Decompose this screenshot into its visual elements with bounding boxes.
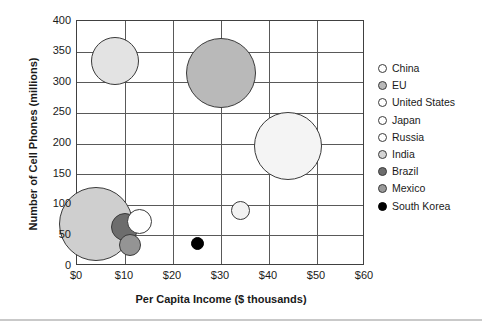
- legend-item-china[interactable]: China: [378, 60, 482, 77]
- x-tick-label: $0: [54, 270, 98, 281]
- bubble-south-korea: [191, 237, 204, 250]
- legend-item-label: Japan: [392, 115, 421, 126]
- legend-item-india[interactable]: India: [378, 146, 482, 163]
- legend-item-brazil[interactable]: Brazil: [378, 163, 482, 180]
- plot-area: [76, 20, 364, 265]
- legend: ChinaEUUnited StatesJapanRussiaIndiaBraz…: [378, 60, 482, 215]
- x-tick-label: $50: [294, 270, 338, 281]
- legend-item-label: India: [392, 149, 415, 160]
- y-tick-label: 100: [31, 198, 71, 209]
- legend-item-japan[interactable]: Japan: [378, 112, 482, 129]
- legend-item-label: Brazil: [392, 166, 418, 177]
- bubble-japan: [231, 201, 250, 220]
- legend-item-label: United States: [392, 97, 455, 108]
- legend-marker-icon: [378, 98, 387, 107]
- legend-marker-icon: [378, 64, 387, 73]
- bubble-chart-figure: Number of Cell Phones (millions) 0501001…: [0, 0, 482, 321]
- gridline-horizontal: [77, 113, 363, 114]
- gridline-vertical: [173, 21, 174, 264]
- y-tick-label: 300: [31, 76, 71, 87]
- legend-marker-icon: [378, 184, 387, 193]
- y-tick-label: 350: [31, 45, 71, 56]
- legend-marker-icon: [378, 116, 387, 125]
- x-tick-label: $30: [198, 270, 242, 281]
- legend-item-label: China: [392, 63, 419, 74]
- y-tick-label: 0: [31, 260, 71, 271]
- legend-item-label: Russia: [392, 132, 424, 143]
- legend-item-label: EU: [392, 80, 407, 91]
- y-tick-label: 200: [31, 137, 71, 148]
- y-tick-label: 150: [31, 168, 71, 179]
- legend-item-united-states[interactable]: United States: [378, 94, 482, 111]
- y-tick-label: 50: [31, 229, 71, 240]
- y-tick-label: 400: [31, 15, 71, 26]
- x-tick-label: $20: [150, 270, 194, 281]
- legend-marker-icon: [378, 133, 387, 142]
- x-tick-label: $60: [342, 270, 386, 281]
- y-tick-label: 250: [31, 106, 71, 117]
- x-axis-title: Per Capita Income ($ thousands): [76, 293, 366, 305]
- legend-item-eu[interactable]: EU: [378, 77, 482, 94]
- legend-marker-icon: [378, 167, 387, 176]
- x-tick-label: $40: [246, 270, 290, 281]
- bubble-eu: [186, 38, 256, 108]
- gridline-horizontal: [77, 174, 363, 175]
- legend-marker-icon: [378, 202, 387, 211]
- legend-item-label: South Korea: [392, 201, 450, 212]
- legend-item-mexico[interactable]: Mexico: [378, 180, 482, 197]
- bubble-china: [91, 37, 139, 85]
- legend-item-label: Mexico: [392, 183, 425, 194]
- bubble-russia: [127, 209, 152, 234]
- legend-item-russia[interactable]: Russia: [378, 129, 482, 146]
- bubble-mexico: [119, 234, 141, 256]
- x-tick-label: $10: [102, 270, 146, 281]
- legend-item-south-korea[interactable]: South Korea: [378, 198, 482, 215]
- legend-marker-icon: [378, 81, 387, 90]
- legend-marker-icon: [378, 150, 387, 159]
- bubble-united-states: [254, 112, 322, 180]
